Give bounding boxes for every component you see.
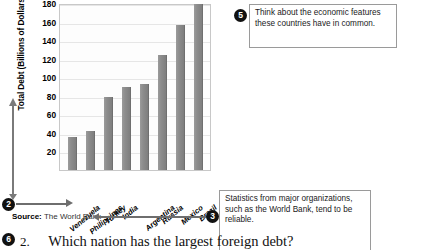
- bar-slot: [193, 5, 204, 170]
- bar-venezuela: [68, 137, 77, 170]
- chart-plot-area: [59, 4, 211, 171]
- callout-badge-6[interactable]: 6: [2, 233, 15, 246]
- bar-philippines: [86, 131, 95, 170]
- y-axis-tick-label: 120: [20, 56, 56, 64]
- bar-slot: [85, 5, 96, 170]
- question-row: 2. Which nation has the largest foreign …: [20, 232, 294, 250]
- callout-badge-2[interactable]: 2: [2, 198, 15, 211]
- figure-root: Total Debt (Billions of Dollars) 1801601…: [0, 0, 431, 250]
- callout-badge-5[interactable]: 5: [234, 9, 247, 22]
- x-axis-category-labels: VenezuelaPhilippinesTurkeyIndiaArgentina…: [59, 172, 211, 212]
- source-line: Source: The World Bank: [12, 212, 101, 221]
- callout-box-5: Think about the economic features these …: [249, 4, 397, 48]
- y-axis-tick-label: 40: [20, 130, 56, 138]
- question-text: Which nation has the largest foreign deb…: [48, 233, 293, 249]
- axis-callout-arrow-shaft: [12, 104, 14, 197]
- bar-india: [122, 87, 131, 170]
- callout-2-leader-line: [16, 203, 68, 205]
- bar-slot: [157, 5, 168, 170]
- bar-slot: [103, 5, 114, 170]
- callout-2-arrow-head: [66, 199, 73, 207]
- bar-slot: [121, 5, 132, 170]
- y-axis-tick-label: 20: [20, 148, 56, 156]
- y-axis-tick-labels: 18016014012010080604020: [18, 4, 56, 171]
- question-number: 2.: [20, 234, 30, 249]
- bar-slot: [67, 5, 78, 170]
- y-axis-tick-label: 100: [20, 74, 56, 82]
- bar-argentina: [140, 84, 149, 170]
- y-axis-tick-label: 80: [20, 93, 56, 101]
- axis-callout-arrow-head: [9, 98, 17, 106]
- y-axis-tick-label: 180: [20, 0, 56, 8]
- source-label: Source:: [12, 212, 42, 221]
- bar-slot: [139, 5, 150, 170]
- callout-3-leader-line: [99, 216, 206, 218]
- y-axis-tick-label: 140: [20, 37, 56, 45]
- callout-3-arrow-head: [93, 213, 99, 221]
- bar-turkey: [104, 97, 113, 170]
- bar-brazil: [194, 4, 203, 170]
- bar-slot: [175, 5, 186, 170]
- bar-series: [60, 5, 210, 170]
- y-axis-tick-label: 160: [20, 19, 56, 27]
- y-axis-tick-label: 60: [20, 111, 56, 119]
- bar-russia: [158, 55, 167, 170]
- callout-badge-3[interactable]: 3: [206, 210, 219, 223]
- bar-mexico: [176, 25, 185, 170]
